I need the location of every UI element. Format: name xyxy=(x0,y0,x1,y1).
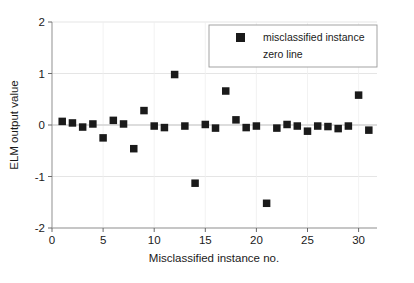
data-point-marker xyxy=(140,107,148,115)
x-tick-label: 0 xyxy=(49,234,55,246)
legend-item-misclassified-instance[interactable]: misclassified instance xyxy=(263,31,365,43)
x-tick-label: 5 xyxy=(100,234,106,246)
data-point-marker xyxy=(232,116,240,124)
data-point-marker xyxy=(314,122,322,130)
data-point-marker xyxy=(355,91,363,99)
y-tick-label: -2 xyxy=(35,222,45,234)
data-point-marker xyxy=(345,122,353,130)
y-tick-label: 0 xyxy=(39,119,45,131)
data-point-marker xyxy=(69,119,77,127)
data-point-marker xyxy=(89,120,97,128)
data-point-marker xyxy=(263,200,271,208)
data-point-marker xyxy=(222,87,230,95)
y-tick-label: 1 xyxy=(39,68,45,80)
data-point-marker xyxy=(181,122,189,130)
chart-legend[interactable]: misclassified instance zero line xyxy=(209,25,377,67)
x-axis-ticks: 051015202530 xyxy=(49,228,365,246)
data-point-marker xyxy=(120,120,128,128)
data-point-marker xyxy=(110,117,118,125)
y-tick-label: 2 xyxy=(39,16,45,28)
x-tick-label: 25 xyxy=(301,234,314,246)
x-tick-label: 10 xyxy=(148,234,161,246)
x-tick-label: 15 xyxy=(199,234,212,246)
data-point-marker xyxy=(58,118,65,126)
legend-item-zero-line[interactable]: zero line xyxy=(263,48,303,60)
data-point-marker xyxy=(130,145,138,153)
data-point-marker xyxy=(191,179,199,187)
y-axis-ticks: -2-1012 xyxy=(35,16,52,234)
data-point-marker xyxy=(283,121,291,129)
data-point-marker xyxy=(150,122,158,130)
legend-square-icon xyxy=(236,33,245,42)
data-point-marker xyxy=(242,124,250,132)
data-point-marker xyxy=(334,125,342,133)
x-tick-label: 30 xyxy=(352,234,365,246)
data-point-marker xyxy=(99,134,107,142)
y-tick-label: -1 xyxy=(35,171,45,183)
data-point-marker xyxy=(365,126,373,133)
chart-container: -2-1012 051015202530 Misclassified insta… xyxy=(0,0,414,283)
data-point-marker xyxy=(253,122,261,130)
data-point-marker xyxy=(202,121,210,129)
data-point-marker xyxy=(212,124,220,132)
data-point-marker xyxy=(161,124,169,132)
data-point-marker xyxy=(304,127,312,134)
data-point-marker xyxy=(171,71,179,79)
y-axis-label: ELM output value xyxy=(8,80,20,170)
scatter-plot: -2-1012 051015202530 Misclassified insta… xyxy=(0,0,414,283)
x-tick-label: 20 xyxy=(250,234,263,246)
data-point-marker xyxy=(273,124,281,132)
x-axis-label: Misclassified instance no. xyxy=(149,252,279,264)
data-point-marker xyxy=(294,122,302,130)
data-point-marker xyxy=(79,123,87,131)
data-point-marker xyxy=(324,123,332,131)
